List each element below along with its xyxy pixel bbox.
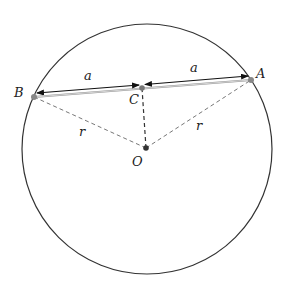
label-a: A: [255, 66, 265, 81]
point-c: [139, 85, 145, 91]
label-o: O: [132, 154, 143, 169]
circle-chord-diagram: B A C O a a r r: [0, 0, 286, 290]
label-r-right: r: [196, 118, 203, 133]
point-o: [143, 145, 149, 151]
label-a-left: a: [84, 68, 92, 83]
point-a: [248, 77, 254, 83]
label-b: B: [13, 85, 24, 100]
label-r-left: r: [79, 124, 86, 139]
label-c: C: [129, 92, 139, 107]
point-b: [31, 94, 37, 100]
radius-oa: [146, 80, 251, 148]
label-a-right: a: [190, 60, 198, 75]
segment-oc: [142, 88, 146, 148]
diagram-canvas: B A C O a a r r: [0, 0, 286, 290]
